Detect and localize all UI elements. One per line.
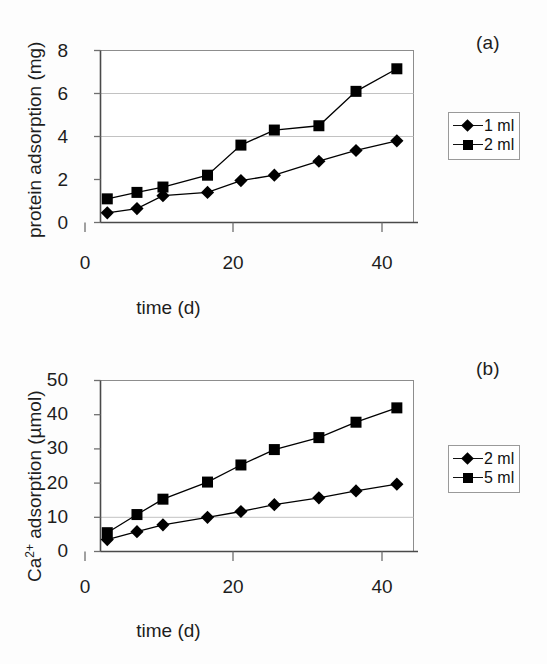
x-axis-ticks-a bbox=[85, 223, 382, 233]
data-point-square-marker bbox=[351, 417, 362, 428]
plot-area-b bbox=[0, 332, 547, 664]
legend-item-b-1[interactable]: 5 ml bbox=[453, 468, 514, 487]
plot-area-a bbox=[0, 0, 547, 332]
legend-label-b-0: 2 ml bbox=[483, 450, 514, 468]
data-point-square-marker bbox=[313, 120, 324, 131]
data-point-square-marker bbox=[391, 63, 402, 74]
legend-marker-square-icon bbox=[453, 470, 483, 486]
data-point-square-marker bbox=[269, 444, 280, 455]
legend-label-a-1: 2 ml bbox=[483, 136, 514, 154]
data-point-square-marker bbox=[235, 140, 246, 151]
figure-container: (a) protein adsorption (mg) 8 6 4 2 0 0 … bbox=[0, 0, 547, 664]
legend-marker-diamond-icon bbox=[453, 451, 483, 467]
legend-b[interactable]: 2 ml 5 ml bbox=[448, 445, 520, 493]
y-axis-ticks-b bbox=[94, 381, 101, 552]
data-point-square-marker bbox=[102, 193, 113, 204]
legend-item-b-0[interactable]: 2 ml bbox=[453, 449, 514, 468]
legend-a[interactable]: 1 ml 2 ml bbox=[448, 112, 520, 160]
data-point-square-marker bbox=[235, 459, 246, 470]
data-point-square-marker bbox=[202, 170, 213, 181]
plot-frame-b bbox=[101, 381, 414, 552]
data-point-square-marker bbox=[157, 494, 168, 505]
data-point-square-marker bbox=[351, 86, 362, 97]
legend-marker-square-icon bbox=[453, 137, 483, 153]
chart-panel-b: (b) Ca2+ adsorption (µmol) 50 40 30 20 1… bbox=[0, 332, 547, 664]
legend-item-a-1[interactable]: 2 ml bbox=[453, 135, 514, 154]
x-axis-ticks-b bbox=[85, 552, 382, 562]
data-point-square-marker bbox=[131, 509, 142, 520]
legend-label-a-0: 1 ml bbox=[483, 117, 514, 135]
legend-marker-diamond-icon bbox=[453, 118, 483, 134]
legend-label-b-1: 5 ml bbox=[483, 469, 514, 487]
data-point-square-marker bbox=[157, 182, 168, 193]
data-point-square-marker bbox=[131, 187, 142, 198]
data-point-square-marker bbox=[202, 477, 213, 488]
legend-item-a-0[interactable]: 1 ml bbox=[453, 116, 514, 135]
data-point-square-marker bbox=[269, 125, 280, 136]
data-point-square-marker bbox=[391, 402, 402, 413]
data-point-square-marker bbox=[313, 432, 324, 443]
y-axis-ticks-a bbox=[94, 51, 101, 223]
data-point-square-marker bbox=[102, 527, 113, 538]
chart-panel-a: (a) protein adsorption (mg) 8 6 4 2 0 0 … bbox=[0, 0, 547, 332]
